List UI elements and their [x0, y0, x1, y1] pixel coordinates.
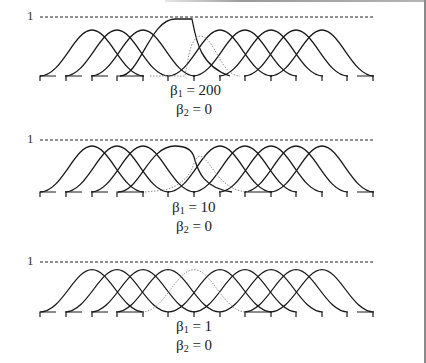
bell-curves — [40, 270, 374, 312]
unit-label-panel-3: 1 — [27, 253, 34, 269]
modified-curve — [120, 19, 230, 76]
beta2-label-panel-2: β2 = 0 — [176, 218, 212, 235]
axis-ticks — [40, 312, 373, 317]
beta2-label-panel-1: β2 = 0 — [176, 101, 212, 118]
bell-curves — [40, 146, 374, 192]
bell-curves — [40, 19, 374, 76]
beta1-label-panel-2: β1 = 10 — [172, 199, 216, 216]
dotted-curve — [145, 156, 250, 192]
axis-ticks — [40, 76, 373, 81]
beta2-label-panel-3: β2 = 0 — [176, 337, 212, 354]
dotted-curve — [150, 36, 240, 76]
dotted-curve — [142, 270, 246, 312]
modified-curve — [118, 146, 232, 192]
axis-ticks — [40, 192, 373, 197]
beta1-label-panel-3: β1 = 1 — [176, 318, 212, 335]
panel-2 — [40, 140, 374, 197]
unit-label-panel-1: 1 — [27, 8, 34, 24]
basis-function-figure — [0, 0, 426, 363]
panel-3 — [40, 262, 374, 317]
beta1-label-panel-1: β1 = 200 — [170, 82, 221, 99]
unit-label-panel-2: 1 — [27, 131, 34, 147]
panel-1 — [40, 17, 374, 81]
